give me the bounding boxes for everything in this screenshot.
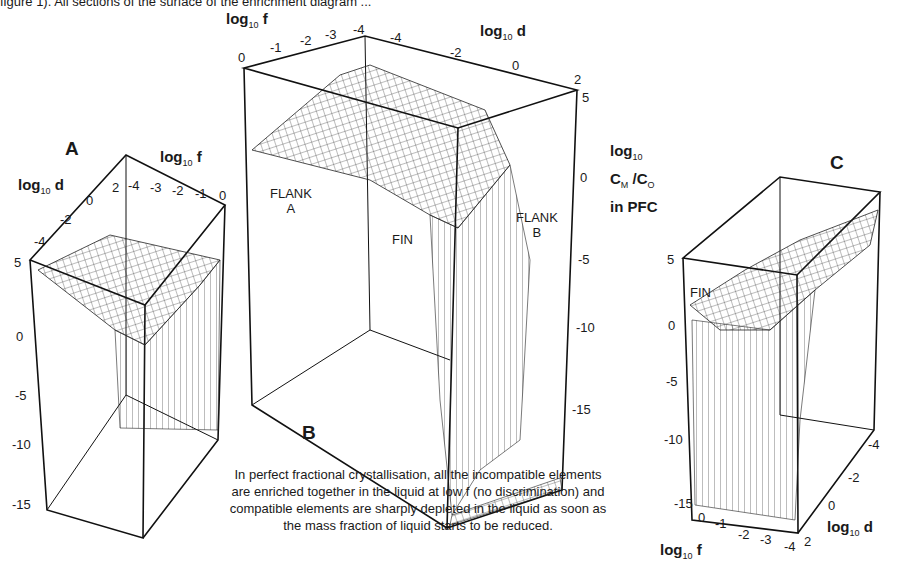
tick: -15 [674, 496, 693, 511]
tick: 0 [238, 50, 245, 65]
tick: -1 [715, 516, 727, 531]
tick: -5 [15, 388, 27, 403]
tick: 5 [667, 252, 674, 267]
fin-label-c: FIN [690, 285, 711, 300]
tick: -4 [34, 234, 46, 249]
tick: -4 [784, 539, 796, 554]
panel-a-f-axis-label: log10 f [160, 148, 202, 168]
tick: -4 [868, 437, 880, 452]
tick: -5 [578, 252, 590, 267]
figure-caption: In perfect fractional crystallisation, a… [198, 466, 638, 534]
tick: 0 [86, 193, 93, 208]
tick: -1 [270, 40, 282, 55]
tick: -2 [450, 45, 462, 60]
panel-a-d-axis-label: log10 d [18, 176, 64, 196]
tick: -4 [128, 178, 140, 193]
tick: -4 [353, 22, 365, 37]
tick: 5 [14, 255, 21, 270]
tick: 2 [804, 534, 811, 549]
tick: 0 [828, 498, 835, 513]
panel-c-f-axis-label: log10 f [660, 541, 702, 561]
panel-a-title: A [65, 138, 79, 160]
tick: -10 [12, 437, 31, 452]
tick: -3 [325, 27, 337, 42]
tick: 2 [112, 180, 119, 195]
tick: -2 [60, 212, 72, 227]
tick: 0 [698, 510, 705, 525]
tick: 0 [580, 170, 587, 185]
tick: -4 [390, 30, 402, 45]
panel-b-title: B [302, 422, 316, 444]
tick: 2 [574, 72, 581, 87]
panel-c-title: C [830, 152, 844, 174]
tick: -2 [738, 527, 750, 542]
tick: 0 [668, 318, 675, 333]
tick: -2 [848, 470, 860, 485]
panel-c-d-axis-label: log10 d [827, 518, 873, 538]
tick: 0 [219, 188, 226, 203]
z-axis-label: log10 CM /CO in PFC [610, 140, 658, 218]
tick: 0 [16, 329, 23, 344]
tick: -2 [300, 33, 312, 48]
tick: -10 [576, 320, 595, 335]
tick: -3 [150, 180, 162, 195]
tick: 0 [512, 58, 519, 73]
flank-a-label: FLANKA [270, 186, 312, 216]
tick: -2 [172, 183, 184, 198]
tick: -15 [12, 497, 31, 512]
tick: 5 [582, 90, 589, 105]
panel-b-f-axis-label: log10 f [226, 10, 268, 30]
tick: -1 [195, 186, 207, 201]
tick: -3 [760, 532, 772, 547]
tick: -15 [572, 402, 591, 417]
panel-b-d-axis-label: log10 d [480, 22, 526, 42]
fin-label: FIN [392, 232, 413, 247]
flank-b-label: FLANKB [516, 210, 558, 240]
tick: -5 [666, 374, 678, 389]
tick: -10 [664, 432, 683, 447]
